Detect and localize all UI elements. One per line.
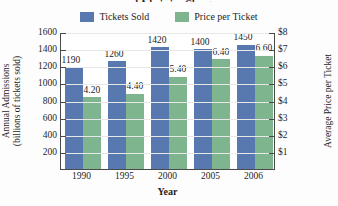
chart-title-text: and Admission Charge bbox=[123, 0, 215, 2]
bar-value-label: 1190 bbox=[62, 56, 81, 66]
gridline bbox=[61, 33, 274, 34]
y-axis-left-title: Annual Admissions (billions of tickets s… bbox=[0, 26, 25, 176]
y-tick-label-left: 200 bbox=[23, 148, 57, 158]
legend-label: Price per Ticket bbox=[194, 12, 257, 22]
bar-price-per-ticket bbox=[83, 97, 101, 169]
y-axis-left-title-line2: (billions of tickets sold) bbox=[12, 56, 23, 147]
y-tick-label-left: 1200 bbox=[23, 62, 57, 72]
x-tick-label: 1995 bbox=[101, 172, 149, 182]
y-axis-right-title-text: Average Price per Ticket bbox=[323, 54, 333, 148]
legend-item-tickets-sold: Tickets Sold bbox=[80, 12, 149, 22]
y-tick-label-right: $7 bbox=[278, 45, 298, 55]
bar-value-label: 1400 bbox=[191, 38, 210, 48]
y-tick-label-right: $6 bbox=[278, 62, 298, 72]
y-tick-mark-right bbox=[269, 136, 274, 137]
bar-tickets-sold bbox=[151, 47, 169, 169]
gridline bbox=[61, 136, 274, 137]
bar-value-label: 1420 bbox=[148, 36, 167, 46]
y-tick-mark-left bbox=[61, 50, 66, 51]
y-tick-label-left: 1000 bbox=[23, 79, 57, 89]
y-tick-label-right: $5 bbox=[278, 79, 298, 89]
x-tick-label: 2006 bbox=[230, 172, 278, 182]
y-tick-label-right: $8 bbox=[278, 28, 298, 38]
chart-legend: Tickets Sold Price per Ticket bbox=[0, 9, 338, 24]
y-tick-mark-left bbox=[61, 136, 66, 137]
x-tick-label: 2005 bbox=[187, 172, 235, 182]
y-tick-mark-right bbox=[269, 50, 274, 51]
y-tick-mark-right bbox=[269, 102, 274, 103]
plot-area: 11904.2012604.4014205.4014006.4014506.60 bbox=[60, 33, 275, 170]
gridline bbox=[61, 102, 274, 103]
x-tick-label: 2000 bbox=[144, 172, 192, 182]
chart-title-clipped: and Admission Charge bbox=[0, 0, 338, 2]
gridline bbox=[61, 84, 274, 85]
y-tick-label-right: $3 bbox=[278, 114, 298, 124]
y-tick-mark-left bbox=[61, 153, 66, 154]
y-tick-mark-left bbox=[61, 84, 66, 85]
y-tick-label-right: $1 bbox=[278, 148, 298, 158]
y-axis-right-title: Average Price per Ticket bbox=[317, 26, 338, 176]
y-tick-label-right: $2 bbox=[278, 131, 298, 141]
legend-label: Tickets Sold bbox=[99, 12, 149, 22]
y-tick-mark-right bbox=[269, 119, 274, 120]
y-tick-mark-right bbox=[269, 33, 274, 34]
bar-price-per-ticket bbox=[169, 77, 187, 169]
bar-tickets-sold bbox=[237, 45, 255, 169]
bar-price-per-ticket bbox=[126, 94, 144, 169]
y-tick-mark-right bbox=[269, 153, 274, 154]
gridline bbox=[61, 50, 274, 51]
legend-swatch-icon bbox=[175, 12, 189, 22]
y-tick-label-left: 600 bbox=[23, 114, 57, 124]
y-tick-label-right: $4 bbox=[278, 97, 298, 107]
bar-value-label: 1450 bbox=[234, 33, 253, 43]
x-axis-ticks: 19901995200020052006 bbox=[60, 172, 275, 185]
x-tick-label: 1990 bbox=[58, 172, 106, 182]
y-tick-label-left: 1400 bbox=[23, 45, 57, 55]
bar-value-label: 4.20 bbox=[84, 86, 101, 96]
y-tick-mark-left bbox=[61, 119, 66, 120]
legend-item-price-per-ticket: Price per Ticket bbox=[175, 12, 257, 22]
x-axis-title: Year bbox=[60, 186, 275, 197]
y-tick-mark-left bbox=[61, 33, 66, 34]
legend-swatch-icon bbox=[80, 12, 94, 22]
y-tick-mark-left bbox=[61, 67, 66, 68]
y-tick-label-left: 800 bbox=[23, 97, 57, 107]
gridline bbox=[61, 119, 274, 120]
y-tick-label-left: 400 bbox=[23, 131, 57, 141]
gridline bbox=[61, 153, 274, 154]
bar-chart: and Admission Charge Tickets Sold Price … bbox=[0, 0, 338, 206]
y-tick-mark-right bbox=[269, 67, 274, 68]
y-axis-left-title-line1: Annual Admissions bbox=[1, 56, 12, 147]
gridline bbox=[61, 67, 274, 68]
y-tick-label-left: 1600 bbox=[23, 28, 57, 38]
y-tick-mark-left bbox=[61, 102, 66, 103]
y-tick-mark-right bbox=[269, 84, 274, 85]
